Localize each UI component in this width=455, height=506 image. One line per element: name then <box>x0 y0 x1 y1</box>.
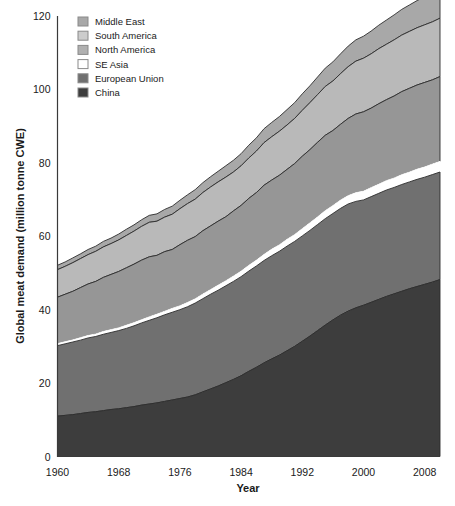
legend-swatch-european-union <box>78 74 88 83</box>
x-tick-label: 2000 <box>352 466 376 478</box>
x-tick-label: 2008 <box>413 466 437 478</box>
legend-label-south-america: South America <box>95 30 157 41</box>
x-axis-title: Year <box>236 482 260 494</box>
x-tick-label: 1984 <box>229 466 253 478</box>
y-tick-label: 100 <box>33 83 51 95</box>
y-tick-label: 0 <box>45 451 51 463</box>
legend-swatch-se-asia <box>78 60 88 69</box>
legend-label-middle-east: Middle East <box>95 16 145 27</box>
stacked-area-chart: 020406080100120 196019681976198419922000… <box>0 0 455 506</box>
x-tick-label: 1960 <box>46 466 70 478</box>
legend-label-se-asia: SE Asia <box>95 59 129 70</box>
x-tick-label: 1992 <box>291 466 315 478</box>
legend-swatch-north-america <box>78 45 88 54</box>
legend-label-north-america: North America <box>95 44 156 55</box>
legend-swatch-china <box>78 88 88 97</box>
chart-container: 020406080100120 196019681976198419922000… <box>0 0 455 506</box>
y-tick-label: 40 <box>39 304 51 316</box>
legend-label-china: China <box>95 87 121 98</box>
legend: Middle EastSouth AmericaNorth AmericaSE … <box>78 16 164 98</box>
y-tick-label: 20 <box>39 377 51 389</box>
legend-label-european-union: European Union <box>95 73 164 84</box>
y-axis-title: Global meat demand (million tonne CWE) <box>14 128 26 344</box>
x-tick-label: 1968 <box>107 466 131 478</box>
x-tick-label: 1976 <box>168 466 192 478</box>
legend-swatch-middle-east <box>78 17 88 26</box>
legend-swatch-south-america <box>78 31 88 40</box>
x-axis-ticks: 1960196819761984199220002008 <box>46 466 437 478</box>
y-tick-label: 80 <box>39 157 51 169</box>
y-axis-ticks: 020406080100120 <box>33 10 51 463</box>
y-tick-label: 60 <box>39 230 51 242</box>
y-tick-label: 120 <box>33 10 51 22</box>
